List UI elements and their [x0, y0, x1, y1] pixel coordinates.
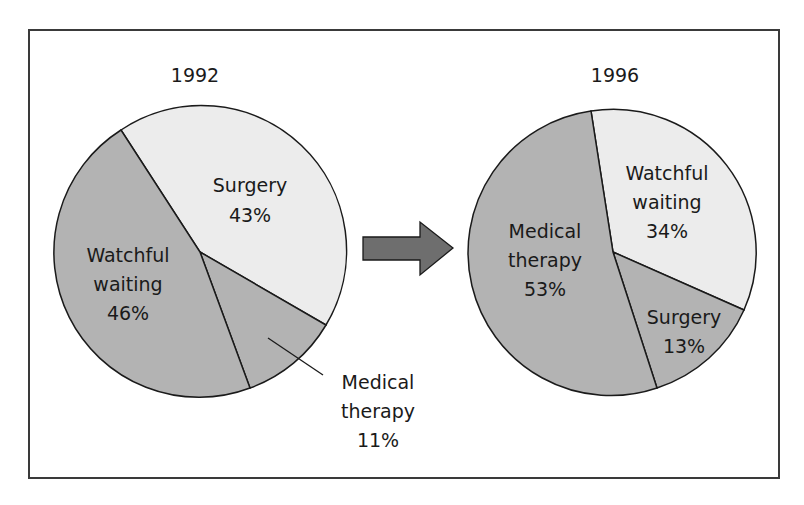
- pie-title-1992: 1992: [171, 64, 219, 86]
- pie-title-1996: 1996: [591, 64, 639, 86]
- label-watchful-1992-line2: waiting: [93, 273, 162, 295]
- pct-watchful-1996: 34%: [646, 220, 688, 242]
- pct-watchful-1992: 46%: [107, 302, 149, 324]
- pct-surgery-1996: 13%: [663, 335, 705, 357]
- pct-medical-1996: 53%: [524, 278, 566, 300]
- pct-surgery-1992: 43%: [229, 204, 271, 226]
- label-medical-1996-line2: therapy: [508, 249, 582, 271]
- label-watchful-1992-line1: Watchful: [86, 244, 169, 266]
- label-medical-1992-line1: Medical: [342, 371, 415, 393]
- chart-canvas: 1992 Surgery 43% Watchful waiting 46% Me…: [0, 0, 804, 505]
- label-surgery-1992: Surgery: [213, 174, 287, 196]
- label-surgery-1996: Surgery: [647, 306, 721, 328]
- label-medical-1996-line1: Medical: [509, 220, 582, 242]
- label-watchful-1996-line2: waiting: [632, 191, 701, 213]
- label-watchful-1996-line1: Watchful: [625, 162, 708, 184]
- label-medical-1992-line2: therapy: [341, 400, 415, 422]
- arrow-right-icon: [363, 222, 453, 275]
- pct-medical-1992: 11%: [357, 429, 399, 451]
